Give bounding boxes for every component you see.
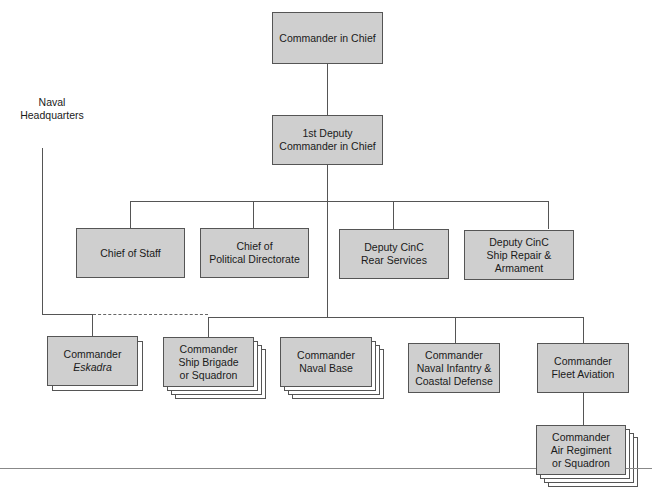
label-line: Naval	[39, 96, 66, 108]
label-line: Headquarters	[20, 109, 84, 121]
box-text: Chief of Staff	[100, 247, 161, 260]
box-text: Deputy CinC	[361, 241, 427, 254]
connector	[583, 317, 584, 343]
box-text: Commander	[552, 355, 615, 368]
box-text: Naval Base	[297, 362, 355, 375]
connector	[548, 201, 549, 229]
connector	[327, 63, 328, 115]
box-text: Commander	[297, 349, 355, 362]
box-text: or Squadron	[178, 369, 238, 382]
chief-of-staff-box: Chief of Staff	[76, 228, 185, 278]
political-directorate-box: Chief ofPolitical Directorate	[200, 228, 309, 278]
box-text: Eskadra	[64, 361, 122, 374]
dotted-connector	[93, 314, 208, 315]
air-regiment-box: CommanderAir Regimentor Squadron	[536, 425, 626, 475]
first-deputy-box: 1st DeputyCommander in Chief	[272, 115, 383, 165]
box-text: Political Directorate	[209, 253, 299, 266]
fleet-aviation-box: CommanderFleet Aviation	[537, 343, 629, 393]
connector	[393, 201, 394, 229]
connector	[327, 165, 328, 318]
box-text: Rear Services	[361, 254, 427, 267]
box-text: Commander	[64, 348, 122, 361]
box-text: Commander in Chief	[279, 140, 375, 153]
ship-repair-box: Deputy CinCShip Repair & Armament	[464, 230, 574, 280]
box-text: Air Regiment	[551, 444, 612, 457]
connector	[583, 392, 584, 425]
naval-headquarters-label: Naval Headquarters	[12, 96, 92, 122]
rear-services-box: Deputy CinCRear Services	[339, 229, 449, 279]
box-text: Coastal Defense	[415, 375, 493, 388]
connector	[130, 201, 131, 229]
box-text: Chief of	[209, 240, 299, 253]
box-text: Commander	[415, 349, 493, 362]
commander-in-chief-box: Commander in Chief	[272, 12, 383, 64]
connector	[455, 317, 456, 343]
box-text: or Squadron	[551, 457, 612, 470]
connector	[92, 314, 93, 336]
box-text: Ship Brigade	[178, 356, 238, 369]
connector	[42, 314, 93, 315]
box-text: 1st Deputy	[279, 127, 375, 140]
ship-brigade-box: CommanderShip Brigadeor Squadron	[163, 337, 254, 387]
connector	[42, 148, 43, 314]
connector	[130, 201, 548, 202]
connector	[208, 317, 583, 318]
box-text: Deputy CinC	[465, 236, 573, 249]
box-text: Commander	[551, 431, 612, 444]
naval-infantry-box: CommanderNaval Infantry &Coastal Defense	[408, 343, 500, 393]
connector	[208, 317, 209, 337]
box-text: Commander	[178, 343, 238, 356]
eskadra-box: CommanderEskadra	[47, 336, 138, 386]
box-text: Commander in Chief	[279, 32, 375, 45]
box-text: Fleet Aviation	[552, 368, 615, 381]
box-text: Naval Infantry &	[415, 362, 493, 375]
connector	[253, 201, 254, 229]
box-text: Ship Repair & Armament	[465, 249, 573, 275]
naval-base-box: CommanderNaval Base	[280, 337, 372, 387]
